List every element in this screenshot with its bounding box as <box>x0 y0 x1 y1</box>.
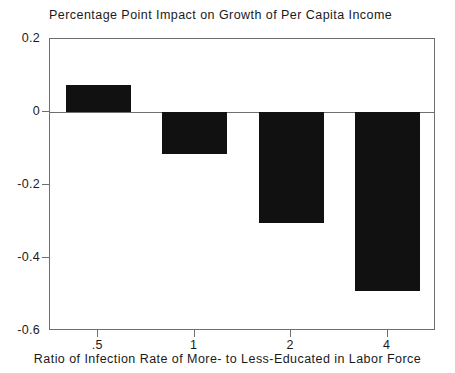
x-tick <box>97 330 98 337</box>
bar-1 <box>162 112 227 154</box>
plot-area <box>50 39 434 329</box>
y-tick <box>42 111 49 112</box>
y-tick <box>42 257 49 258</box>
y-tick-label: 0 <box>0 104 40 118</box>
x-tick-label: 1 <box>164 338 224 352</box>
plot-frame <box>49 38 435 330</box>
y-tick-label: 0.2 <box>0 31 40 45</box>
x-tick <box>290 330 291 337</box>
x-tick-label: 4 <box>357 338 417 352</box>
chart-title: Percentage Point Impact on Growth of Per… <box>49 8 435 22</box>
y-tick-label: -0.4 <box>0 250 40 264</box>
x-tick-label: .5 <box>67 338 127 352</box>
y-tick-label: -0.6 <box>0 323 40 337</box>
x-tick-label: 2 <box>260 338 320 352</box>
bar-.5 <box>66 85 131 112</box>
x-tick <box>194 330 195 337</box>
y-tick <box>42 184 49 185</box>
x-axis-title: Ratio of Infection Rate of More- to Less… <box>0 352 455 366</box>
chart-figure: Percentage Point Impact on Growth of Per… <box>0 0 455 373</box>
bar-2 <box>259 112 324 223</box>
bar-4 <box>355 112 420 291</box>
y-tick-label: -0.2 <box>0 177 40 191</box>
x-tick <box>387 330 388 337</box>
